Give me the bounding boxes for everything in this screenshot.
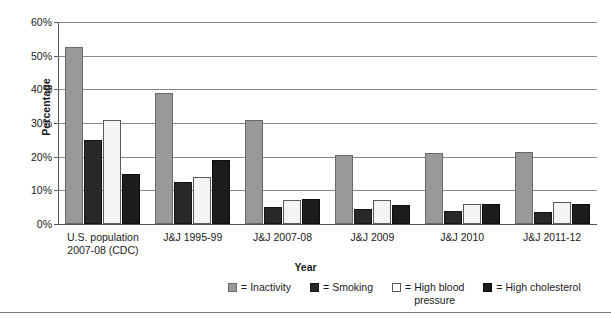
bar-group (238, 22, 328, 224)
legend-item: =Smoking (310, 281, 373, 294)
bar (212, 160, 230, 224)
legend-item: =High blood pressure (392, 281, 464, 306)
plot-area: 0%10%20%30%40%50%60% (58, 22, 597, 225)
x-axis-line (58, 224, 597, 225)
x-tick-label: J&J 2011-12 (477, 231, 611, 244)
bar (354, 209, 372, 224)
bar (335, 155, 353, 224)
bar (245, 120, 263, 224)
bar-group (148, 22, 238, 224)
bar (174, 182, 192, 224)
bar (122, 174, 140, 225)
y-tick-label: 10% (31, 184, 52, 196)
bar (193, 177, 211, 224)
chart-legend: =Inactivity=Smoking=High blood pressure=… (228, 281, 611, 306)
legend-swatch-cholesterol (483, 283, 492, 292)
bar-group (417, 22, 507, 224)
legend-swatch-hbp (392, 283, 401, 292)
legend-equals-sign: = (241, 281, 247, 293)
bar (65, 47, 83, 224)
y-axis-title: Percentage (40, 57, 52, 157)
legend-label: High cholesterol (505, 281, 580, 294)
bar (515, 152, 533, 224)
bar (572, 204, 590, 224)
footer-divider (0, 312, 611, 313)
legend-label: High blood pressure (414, 281, 464, 306)
legend-swatch-inactivity (228, 283, 237, 292)
bar (155, 93, 173, 224)
bar (302, 199, 320, 224)
y-tick-mark (54, 224, 58, 225)
bar-group (58, 22, 148, 224)
bar (283, 200, 301, 224)
y-tick-label: 40% (31, 83, 52, 95)
legend-item: =Inactivity (228, 281, 291, 294)
bar-group (328, 22, 418, 224)
y-tick-label: 60% (31, 16, 52, 28)
legend-equals-sign: = (405, 281, 411, 293)
bar (84, 140, 102, 224)
bar (534, 212, 552, 224)
bar (482, 204, 500, 224)
legend-equals-sign: = (323, 281, 329, 293)
legend-label: Smoking (332, 281, 373, 294)
y-tick-label: 30% (31, 117, 52, 129)
bar (264, 207, 282, 224)
bar (444, 211, 462, 224)
legend-swatch-smoking (310, 283, 319, 292)
bar (425, 153, 443, 224)
bar (392, 205, 410, 224)
bar (463, 204, 481, 224)
x-axis-title: Year (0, 261, 611, 273)
y-tick-label: 50% (31, 50, 52, 62)
legend-item: =High cholesterol (483, 281, 580, 294)
legend-equals-sign: = (496, 281, 502, 293)
bar-chart-figure: Percentage 0%10%20%30%40%50%60% U.S. pop… (0, 0, 611, 321)
bar (373, 200, 391, 224)
bar-group (507, 22, 597, 224)
y-tick-label: 20% (31, 151, 52, 163)
bar (553, 202, 571, 224)
bar (103, 120, 121, 224)
legend-label: Inactivity (250, 281, 291, 294)
y-tick-label: 0% (37, 218, 52, 230)
